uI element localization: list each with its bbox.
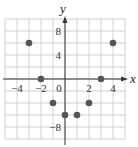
x-tick-labels: −4−2024 — [11, 82, 116, 94]
scatter-plot: x y −4−2024 84−8 — [0, 0, 138, 147]
y-tick-label: 8 — [56, 25, 62, 37]
data-point — [50, 100, 57, 107]
data-point — [86, 100, 93, 107]
y-axis-label: y — [58, 1, 66, 16]
x-tick-label: −4 — [11, 82, 23, 94]
x-tick-label: 0 — [56, 82, 62, 94]
data-point — [26, 40, 33, 47]
x-tick-label: −2 — [35, 82, 47, 94]
data-point — [110, 40, 117, 47]
data-point — [98, 76, 105, 83]
x-axis-label: x — [129, 71, 136, 86]
data-point — [38, 76, 45, 83]
data-point — [62, 112, 69, 119]
y-tick-label: 4 — [56, 49, 62, 61]
y-tick-label: −8 — [49, 121, 61, 133]
data-point — [74, 112, 81, 119]
x-tick-label: 2 — [86, 82, 92, 94]
x-tick-label: 4 — [110, 82, 116, 94]
axes — [3, 16, 128, 145]
